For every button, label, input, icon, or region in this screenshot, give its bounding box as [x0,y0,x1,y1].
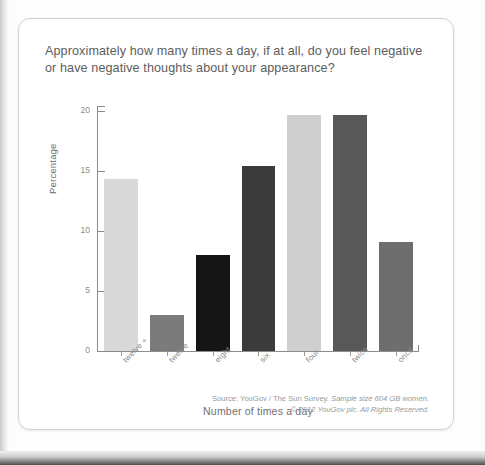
y-axis-tick-label: 5 [85,285,90,295]
y-axis-tick-label: 10 [81,225,90,235]
bar-series: twelve +twelveeightsixfourtwiceonce [98,106,419,351]
footer-source-line: Source: YouGov / The Sun Survey. Sample … [212,393,429,404]
bar-slot: twice [327,106,373,351]
footer-copyright-line: © 2012 YouGov plc. All Rights Reserved. [212,404,429,415]
bar-slot: eight [190,106,236,351]
plot-area: 05101520 twelve +twelveeightsixfourtwice… [97,106,419,352]
chart-title: Approximately how many times a day, if a… [45,43,435,77]
y-axis-tick-label: 15 [81,165,90,175]
bar-slot: twelve + [98,106,144,351]
chart-card: Approximately how many times a day, if a… [18,18,454,430]
bar-slot: once [373,106,419,351]
x-axis-tick [167,351,168,356]
page-edge-shadow-bottom [0,451,485,465]
bar[interactable] [287,115,321,351]
page-edge-shadow-left [0,0,9,465]
bar-slot: four [281,106,327,351]
y-axis-tick: 0 [97,351,105,352]
bar[interactable] [104,179,138,351]
footer-source-text: Source: YouGov / The Sun Survey. [212,394,329,403]
chart-footer: Source: YouGov / The Sun Survey. Sample … [212,393,429,415]
bar[interactable] [379,242,413,351]
y-axis-tick-label: 0 [85,345,90,355]
y-axis-label: Percentage [47,143,58,194]
x-axis-tick-label: six [258,351,272,365]
y-axis-tick-label: 20 [81,105,90,115]
footer-sample-size-text: Sample size 604 GB women. [331,394,429,403]
bar-slot: six [236,106,282,351]
x-axis-tick [213,351,214,356]
bar[interactable] [242,166,276,351]
bar[interactable] [196,255,230,351]
bar[interactable] [333,115,367,351]
bar-slot: twelve [144,106,190,351]
